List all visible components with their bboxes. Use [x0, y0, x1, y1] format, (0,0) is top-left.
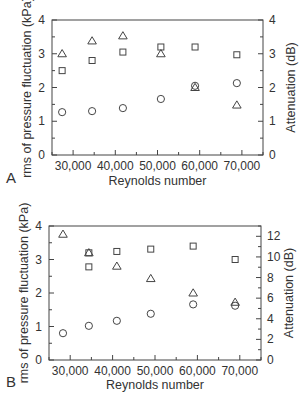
y-tick-label: 1 [38, 114, 45, 128]
y-tick-label: 3 [38, 47, 45, 61]
plot-frame [52, 20, 263, 155]
y2-tick-label: 6 [267, 291, 274, 305]
y2-tick-label: 0 [269, 148, 276, 162]
y-tick-label: 4 [38, 13, 45, 27]
triangle-marker [146, 274, 155, 281]
y-tick-label: 3 [35, 253, 42, 267]
y2-tick-label: 10 [267, 250, 281, 264]
square-marker [86, 264, 92, 270]
x-axis-title: Reynolds number [106, 378, 204, 392]
square-marker [89, 58, 95, 64]
circle-marker [190, 301, 197, 308]
square-marker [190, 243, 196, 249]
y2-tick-label: 0 [267, 353, 274, 367]
y2-tick-label: 1 [269, 114, 276, 128]
square-marker [120, 49, 126, 55]
triangle-marker [59, 230, 68, 237]
plot-frame [49, 226, 261, 360]
y2-tick-label: 8 [267, 271, 274, 285]
y-tick-label: 2 [38, 81, 45, 95]
x-tick-label: 30,000 [52, 364, 89, 378]
triangle-marker [157, 50, 166, 57]
circle-marker [233, 80, 240, 87]
square-marker [234, 52, 240, 58]
x-tick-label: 50,000 [139, 159, 176, 173]
circle-marker [85, 322, 92, 329]
triangle-marker [113, 262, 122, 269]
y2-tick-label: 2 [269, 81, 276, 95]
y2-axis-title: Attenuation (dB) [284, 42, 298, 132]
figure: 30,00040,00050,00060,00070,0000123401234… [0, 0, 308, 403]
series-square [86, 243, 238, 270]
series-circle [59, 80, 241, 116]
panel-letter: B [6, 373, 16, 390]
x-tick-label: 70,000 [221, 364, 258, 378]
triangle-marker [189, 289, 198, 296]
series-circle [59, 301, 238, 337]
panel-letter: A [6, 169, 16, 186]
square-marker [232, 257, 238, 263]
triangle-marker [119, 32, 128, 39]
square-marker [192, 44, 198, 50]
triangle-marker [88, 37, 97, 44]
square-marker [114, 248, 120, 254]
x-tick-label: 60,000 [181, 159, 218, 173]
y2-tick-label: 2 [267, 332, 274, 346]
y2-tick-label: 4 [267, 312, 274, 326]
circle-marker [59, 109, 66, 116]
x-tick-label: 60,000 [179, 364, 216, 378]
circle-marker [119, 104, 126, 111]
circle-marker [157, 95, 164, 102]
circle-marker [59, 330, 66, 337]
circle-marker [88, 108, 95, 115]
circle-marker [113, 317, 120, 324]
panel-b: 30,00040,00050,00060,00070,0000123402468… [6, 203, 296, 392]
x-tick-label: 40,000 [97, 159, 134, 173]
y2-tick-label: 12 [267, 229, 281, 243]
y-tick-label: 0 [35, 353, 42, 367]
chart-canvas: 30,00040,00050,00060,00070,0000123401234… [0, 0, 308, 403]
x-tick-label: 50,000 [137, 364, 174, 378]
series-triangle [58, 32, 241, 108]
y2-axis-title: Attenuation (dB) [282, 248, 296, 338]
y-axis-title: rms of pressure fluctuation (kPa) [20, 0, 34, 178]
y-tick-label: 0 [38, 148, 45, 162]
x-tick-label: 70,000 [224, 159, 261, 173]
y-axis-title: rms of pressure fluctuation (kPa) [17, 203, 31, 384]
series-square [59, 44, 240, 74]
triangle-marker [233, 101, 242, 108]
triangle-marker [58, 50, 67, 57]
circle-marker [147, 310, 154, 317]
y-tick-label: 2 [35, 286, 42, 300]
x-axis-title: Reynolds number [109, 174, 207, 188]
square-marker [59, 68, 65, 74]
x-tick-label: 40,000 [94, 364, 131, 378]
y-tick-label: 4 [35, 219, 42, 233]
y2-tick-label: 3 [269, 47, 276, 61]
y2-tick-label: 4 [269, 13, 276, 27]
square-marker [148, 246, 154, 252]
panel-a: 30,00040,00050,00060,00070,0000123401234… [6, 0, 298, 188]
y-tick-label: 1 [35, 320, 42, 334]
x-tick-label: 30,000 [55, 159, 92, 173]
